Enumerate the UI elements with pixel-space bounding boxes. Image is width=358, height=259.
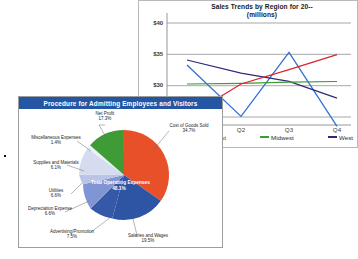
legend-item-west[interactable]: West — [328, 134, 353, 141]
pie-label-total-operating-expenses: Total Operating Expenses 48.1% — [91, 180, 147, 191]
pie-panel-titlebar: Procedure for Admitting Employees and Vi… — [19, 97, 222, 109]
pie-slices — [79, 130, 169, 220]
bullet-mark — [4, 155, 6, 157]
pie-label-advertising-promotion: Advertising/Promotion 7.5% — [39, 229, 105, 240]
pie-label-supplies-and-materials: Supplies and Materials 6.1% — [21, 160, 91, 171]
pie-label-depreciation-expense: Depreciation Expense 6.6% — [19, 206, 81, 217]
pie-label-miscellaneous-expenses: Miscellaneous Expenses 1.4% — [21, 135, 91, 146]
series-line-midwest — [187, 82, 337, 85]
legend-label-midwest: Midwest — [271, 134, 294, 141]
pie-chart-panel[interactable]: Procedure for Admitting Employees and Vi… — [18, 96, 223, 248]
y-axis-tick-40: $40 — [141, 20, 163, 26]
y-axis-tick-30: $30 — [141, 82, 163, 88]
legend-swatch-icon — [260, 136, 269, 138]
legend-item-midwest[interactable]: Midwest — [260, 134, 294, 141]
pie-chart-body: Net Profit 17.3% Miscellaneous Expenses … — [19, 109, 222, 249]
pie-label-salaries-and-wages: Salaries and Wages 19.5% — [117, 233, 179, 244]
pie-label-utilities: Utilities 6.6% — [33, 188, 79, 199]
pie-label-cost-of-goods-sold: Cost of Goods Sold 34.7% — [159, 123, 219, 134]
pie-panel-title: Procedure for Admitting Employees and Vi… — [44, 100, 198, 107]
pie-label-net-profit: Net Profit 17.3% — [81, 111, 129, 122]
y-axis-tick-35: $35 — [141, 51, 163, 57]
legend-swatch-icon — [328, 136, 337, 138]
legend-label-west: West — [339, 134, 353, 141]
